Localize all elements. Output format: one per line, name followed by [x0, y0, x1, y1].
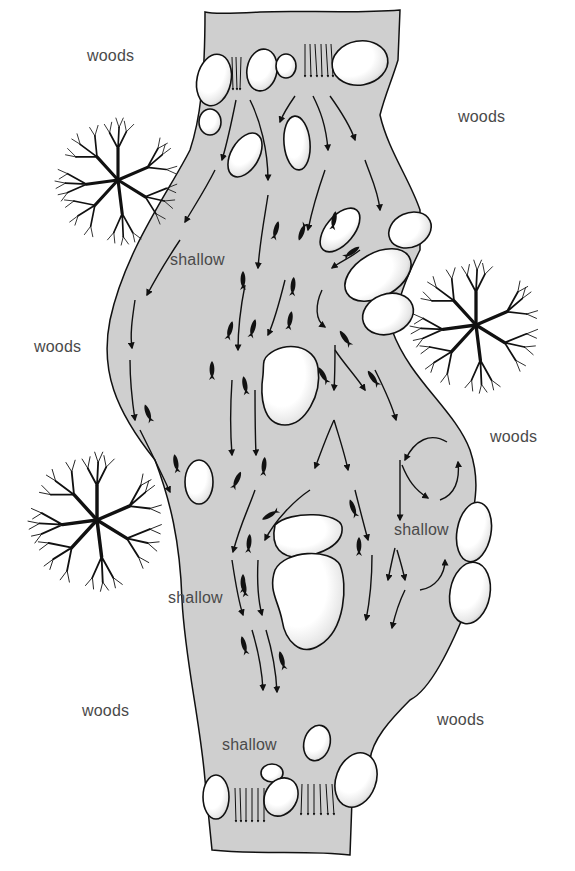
tree-icon	[410, 260, 538, 393]
label-woods-mid-left: woods	[34, 338, 81, 356]
label-woods-mid-right: woods	[490, 428, 537, 446]
label-woods-top-left: woods	[87, 47, 134, 65]
label-woods-bottom-left: woods	[82, 702, 129, 720]
tree-icon	[28, 452, 161, 591]
label-shallow-bottom: shallow	[222, 736, 277, 754]
stream-diagram: woods woods woods woods woods woods shal…	[0, 0, 575, 871]
label-woods-top-right: woods	[458, 108, 505, 126]
label-shallow-left: shallow	[168, 589, 223, 607]
label-shallow-upper: shallow	[170, 251, 225, 269]
label-shallow-right: shallow	[394, 521, 449, 539]
stream-illustration	[0, 0, 575, 871]
label-woods-bottom-right: woods	[437, 711, 484, 729]
